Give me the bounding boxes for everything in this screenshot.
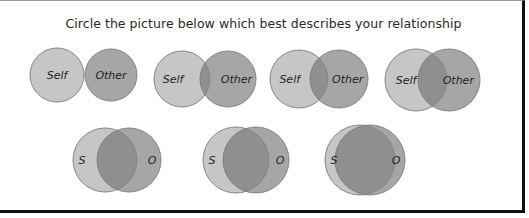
venn-options-diagram: SelfOtherSelfOtherSelfOtherSelfOtherSOSO…	[0, 0, 529, 218]
other-label: O	[148, 154, 157, 167]
self-label: S	[79, 154, 86, 167]
self-label: S	[331, 154, 338, 167]
other-label: O	[276, 154, 285, 167]
venn-option-6[interactable]: SO	[203, 127, 289, 193]
venn-option-3[interactable]: SelfOther	[270, 50, 368, 108]
self-label: Self	[163, 73, 186, 86]
self-label: Self	[279, 73, 302, 86]
venn-option-1[interactable]: SelfOther	[30, 48, 137, 102]
self-label: S	[209, 154, 216, 167]
other-label: Other	[95, 69, 128, 82]
venn-option-7[interactable]: SO	[325, 125, 405, 195]
self-label: Self	[47, 69, 70, 82]
other-label: O	[392, 154, 401, 167]
other-label: Other	[332, 73, 365, 86]
other-label: Other	[443, 74, 476, 87]
venn-option-2[interactable]: SelfOther	[154, 51, 256, 107]
other-label: Other	[221, 73, 254, 86]
venn-option-4[interactable]: SelfOther	[385, 49, 480, 111]
self-label: Self	[396, 74, 419, 87]
venn-option-5[interactable]: SO	[73, 128, 161, 192]
